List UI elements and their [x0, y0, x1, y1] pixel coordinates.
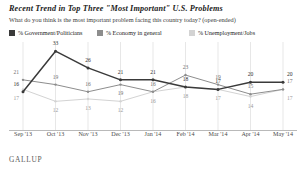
x-axis-tick-label: Dec '13 — [111, 131, 130, 137]
data-label: 21 — [118, 69, 124, 75]
legend-label-economy: % Economy in general — [106, 30, 162, 36]
x-axis-tick-label: May '14 — [273, 131, 293, 137]
data-label: 14 — [248, 103, 254, 109]
chart-legend: % Government/Politicians % Economy in ge… — [9, 30, 302, 40]
data-point — [119, 100, 121, 102]
data-label: 18 — [183, 76, 189, 82]
data-label: 12 — [53, 107, 59, 113]
data-point — [249, 95, 251, 97]
data-point — [249, 93, 251, 95]
data-label: 18 — [183, 93, 189, 99]
data-label: 19 — [118, 90, 124, 96]
data-point — [217, 88, 220, 91]
data-label: 19 — [215, 74, 221, 80]
x-axis-tick-label: Apr '14 — [241, 131, 259, 137]
x-axis-tick-label: Jan '14 — [145, 131, 162, 137]
data-point — [184, 86, 187, 89]
data-point — [87, 98, 89, 100]
data-point — [87, 91, 89, 93]
data-point — [282, 81, 285, 84]
legend-item-unemployment[interactable]: % Unemployment/Jobs — [189, 30, 255, 36]
chart-svg: 1633262121181720202119161916231915171712… — [9, 44, 297, 130]
data-label: 17 — [287, 95, 293, 101]
data-point — [87, 66, 90, 69]
legend-swatch-government-icon — [9, 30, 15, 36]
data-point — [22, 90, 25, 93]
x-axis-tick-label: Nov '13 — [78, 131, 97, 137]
data-label: 20 — [287, 71, 293, 77]
data-label: 13 — [85, 105, 91, 111]
data-point — [22, 79, 24, 81]
legend-swatch-economy-icon — [97, 30, 103, 36]
data-label: 15 — [248, 83, 254, 89]
data-label: 12 — [118, 107, 124, 113]
page-title: Recent Trend in Top Three "Most Importan… — [9, 4, 223, 13]
data-point — [152, 91, 154, 93]
legend-item-economy[interactable]: % Economy in general — [97, 30, 162, 36]
data-label: 17 — [287, 78, 293, 84]
legend-label-government: % Government/Politicians — [18, 30, 82, 36]
x-axis-tick-label: Feb '14 — [177, 131, 195, 137]
data-point — [119, 83, 121, 85]
data-label: 16 — [85, 81, 91, 87]
data-label: 21 — [13, 69, 19, 75]
data-label: 20 — [248, 71, 254, 77]
x-axis-tick-label: Mar '14 — [209, 131, 228, 137]
chart-plot-area: 1633262121181720202119161916231915171712… — [9, 44, 297, 130]
data-label: 26 — [85, 57, 91, 63]
x-axis-tick-label: Oct '13 — [47, 131, 65, 137]
data-point — [119, 78, 122, 81]
legend-swatch-unemployment-icon — [189, 30, 195, 36]
chart-subtitle: What do you think is the most important … — [9, 16, 236, 23]
data-label: 19 — [53, 74, 59, 80]
legend-label-unemployment: % Unemployment/Jobs — [198, 30, 255, 36]
x-axis-tick-label: Sep '13 — [14, 131, 32, 137]
data-point — [54, 50, 57, 53]
data-label: 16 — [150, 81, 156, 87]
data-label: 21 — [150, 69, 156, 75]
data-label: 33 — [53, 40, 59, 46]
data-label: 16 — [150, 98, 156, 104]
data-label: 17 — [13, 95, 19, 101]
data-point — [282, 88, 284, 90]
data-label: 16 — [13, 81, 19, 87]
data-point — [54, 100, 56, 102]
data-point — [54, 83, 56, 85]
legend-item-government[interactable]: % Government/Politicians — [9, 30, 82, 36]
data-label: 17 — [215, 95, 221, 101]
gallup-trend-chart: Recent Trend in Top Three "Most Importan… — [0, 0, 306, 174]
gallup-logo: GALLUP — [9, 155, 42, 164]
data-label: 23 — [183, 64, 189, 70]
x-axis: Sep '13Oct '13Nov '13Dec '13Jan '14Feb '… — [9, 131, 297, 143]
